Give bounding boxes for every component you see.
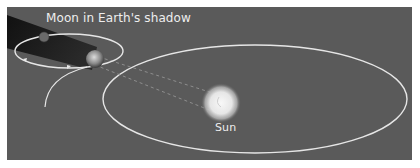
eclipse-diagram-graphic	[7, 7, 412, 160]
eclipse-diagram-panel: Moon in Earth's shadow Sun	[7, 7, 412, 160]
earth	[86, 50, 104, 68]
moon-in-shadow-label: Moon in Earth's shadow	[46, 11, 191, 25]
sun-label: Sun	[215, 121, 236, 134]
earth-orbit	[103, 45, 407, 153]
earth-path-arc	[45, 67, 87, 107]
sightline-dashes	[95, 57, 219, 113]
moon	[39, 32, 49, 42]
sun	[201, 83, 241, 123]
